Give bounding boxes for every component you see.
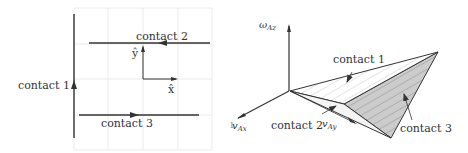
x-axis-arrow-icon [171,77,178,81]
contact-1-line [71,14,77,138]
omega-az-label: ωAz [259,19,276,32]
contact-2-label-3d: contact 2 [271,119,323,132]
3d-axes [237,24,291,119]
y-axis-arrow-icon [141,45,145,52]
local-axes [141,45,178,81]
x-axis-label: x̂ [168,83,175,96]
y-axis-label: ŷ [131,47,139,60]
contact-1-label: contact 1 [18,79,70,92]
left-panel: contact 1 contact 2 contact 3 ŷ x̂ ı [18,8,234,150]
contact-3-label: contact 3 [101,117,153,130]
contact-1-label-3d: contact 1 [333,53,385,66]
contact-2-label: contact 2 [136,30,188,43]
omega-axis-arrow-icon [287,24,291,32]
arrow-up-icon [71,80,77,89]
right-panel: contact 1 contact 2 contact 3 ωAz vAx vA… [232,19,452,138]
v-ay-label: vAy [322,118,337,131]
contact-3-label-3d: contact 3 [400,122,452,135]
v-ax-label: vAx [232,120,247,133]
contact-diagram: contact 1 contact 2 contact 3 ŷ x̂ ı [0,0,468,153]
